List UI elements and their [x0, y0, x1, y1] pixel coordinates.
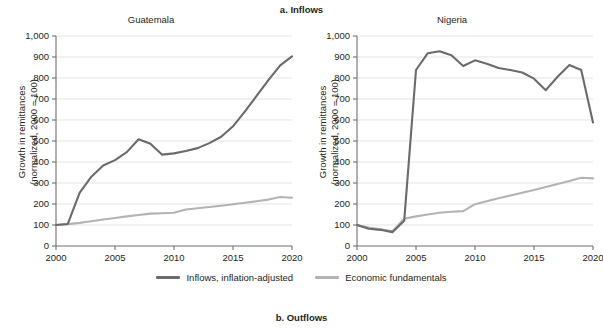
legend-label-inflows: Inflows, inflation-adjusted [186, 272, 293, 283]
svg-text:800: 800 [334, 72, 350, 83]
svg-text:2020: 2020 [281, 252, 302, 263]
svg-text:200: 200 [33, 198, 49, 209]
svg-text:2005: 2005 [405, 252, 426, 263]
svg-text:1,000: 1,000 [25, 30, 49, 41]
panel-b-title: b. Outflows [0, 312, 603, 323]
svg-text:100: 100 [33, 219, 49, 230]
svg-text:300: 300 [33, 177, 49, 188]
series-2 [56, 197, 292, 225]
svg-text:2010: 2010 [464, 252, 485, 263]
svg-text:2005: 2005 [104, 252, 125, 263]
svg-text:2020: 2020 [582, 252, 603, 263]
svg-text:2015: 2015 [523, 252, 544, 263]
svg-text:100: 100 [334, 219, 350, 230]
figure-legend: Inflows, inflation-adjusted Economic fun… [0, 272, 603, 283]
legend-label-fundamentals: Economic fundamentals [345, 272, 446, 283]
svg-text:2015: 2015 [222, 252, 243, 263]
line-swatch-icon [315, 276, 339, 279]
plot-area-guatemala: 01002003004005006007008009001,0002000200… [6, 14, 296, 266]
svg-text:2000: 2000 [346, 252, 367, 263]
svg-text:2010: 2010 [163, 252, 184, 263]
svg-text:300: 300 [334, 177, 350, 188]
svg-text:500: 500 [334, 135, 350, 146]
plot-area-nigeria: 01002003004005006007008009001,0002000200… [307, 14, 597, 266]
svg-text:700: 700 [33, 93, 49, 104]
svg-text:800: 800 [33, 72, 49, 83]
series-2 [357, 178, 593, 232]
svg-text:0: 0 [44, 240, 49, 251]
line-swatch-icon [156, 276, 180, 279]
svg-text:400: 400 [334, 156, 350, 167]
svg-text:200: 200 [334, 198, 350, 209]
chart-guatemala: Guatemala Growth in remittances (normali… [6, 14, 296, 266]
svg-text:400: 400 [33, 156, 49, 167]
legend-item-inflows: Inflows, inflation-adjusted [156, 272, 293, 283]
svg-text:2000: 2000 [45, 252, 66, 263]
svg-text:600: 600 [334, 114, 350, 125]
svg-text:500: 500 [33, 135, 49, 146]
svg-text:900: 900 [334, 51, 350, 62]
chart-nigeria: Nigeria Growth in remittances (normalize… [307, 14, 597, 266]
legend-item-fundamentals: Economic fundamentals [315, 272, 446, 283]
svg-text:600: 600 [33, 114, 49, 125]
svg-text:0: 0 [345, 240, 350, 251]
svg-text:1,000: 1,000 [326, 30, 350, 41]
svg-text:900: 900 [33, 51, 49, 62]
svg-text:700: 700 [334, 93, 350, 104]
